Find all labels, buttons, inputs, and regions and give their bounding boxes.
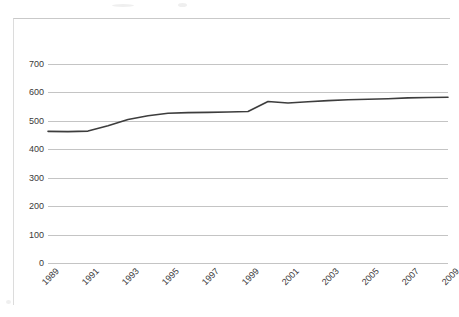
y-tick-label: 700 — [10, 60, 44, 69]
y-tick-label: 300 — [10, 174, 44, 183]
y-tick-label: 500 — [10, 117, 44, 126]
y-tick-label: 0 — [10, 259, 44, 268]
chart-title — [0, 1, 459, 11]
scan-artifact — [6, 300, 11, 304]
x-tick-label: 2007 — [393, 266, 421, 294]
gridline — [48, 263, 448, 264]
x-tick-label: 2003 — [313, 266, 341, 294]
y-tick-label: 200 — [10, 202, 44, 211]
y-tick-label: 100 — [10, 231, 44, 240]
scan-artifact — [112, 4, 134, 7]
y-tick-label: 400 — [10, 145, 44, 154]
x-tick-label: 1995 — [153, 266, 181, 294]
y-tick-label: 600 — [10, 88, 44, 97]
y-axis: 7006005004003002001000 — [8, 64, 44, 263]
scan-artifact — [178, 3, 187, 7]
x-tick-label: 2001 — [273, 266, 301, 294]
x-tick-label: 1999 — [233, 266, 261, 294]
data-series-layer — [48, 64, 448, 263]
x-tick-label: 1993 — [113, 266, 141, 294]
x-tick-label: 1991 — [73, 266, 101, 294]
chart-figure: 7006005004003002001000 19891991199319951… — [0, 0, 459, 317]
series-line — [48, 97, 448, 131]
x-tick-label: 2009 — [433, 266, 459, 294]
x-axis: 1989199119931995199719992001200320052007… — [48, 266, 448, 312]
x-tick-label: 1997 — [193, 266, 221, 294]
x-tick-label: 2005 — [353, 266, 381, 294]
